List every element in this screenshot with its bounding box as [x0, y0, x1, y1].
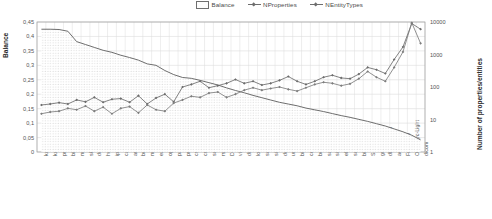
data-point-marker	[269, 82, 272, 85]
data-point-marker	[269, 87, 272, 90]
plot-area	[0, 0, 492, 219]
chart-container: Balance NProperties NEntityTypes Balance…	[0, 0, 492, 219]
data-point-marker	[340, 77, 343, 80]
data-point-marker	[331, 82, 334, 85]
data-point-marker	[305, 83, 308, 86]
data-point-marker	[419, 42, 422, 45]
data-point-marker	[234, 78, 237, 81]
data-point-marker	[243, 82, 246, 85]
data-point-marker	[243, 89, 246, 92]
data-point-marker	[287, 88, 290, 91]
data-point-marker	[313, 80, 316, 83]
data-point-marker	[322, 76, 325, 79]
data-point-marker	[313, 83, 316, 86]
data-point-marker	[331, 74, 334, 77]
data-point-marker	[261, 84, 264, 87]
data-point-marker	[278, 79, 281, 82]
data-point-marker	[322, 81, 325, 84]
data-point-marker	[261, 89, 264, 92]
data-point-marker	[225, 82, 228, 85]
data-point-marker	[278, 86, 281, 89]
data-point-marker	[375, 68, 378, 71]
data-point-marker	[252, 86, 255, 89]
data-point-marker	[296, 90, 299, 93]
data-point-marker	[252, 80, 255, 83]
data-point-marker	[305, 86, 308, 89]
data-point-marker	[340, 84, 343, 87]
